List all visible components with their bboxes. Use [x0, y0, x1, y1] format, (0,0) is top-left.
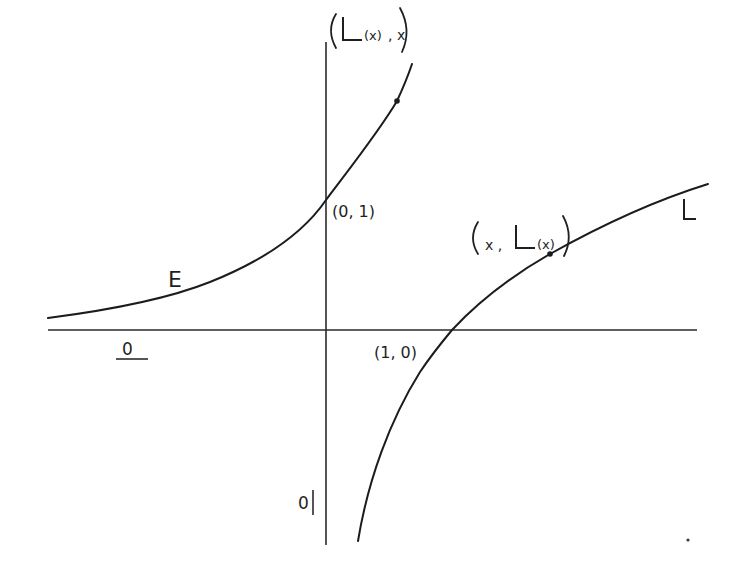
x-origin-zero: 0 [122, 339, 133, 359]
curve-E [48, 64, 412, 318]
exp-log-diagram: (x) , x (0, 1) E 0 (1, 0) x , (x) L 0 [0, 0, 737, 575]
label-L-subscript: (x) [364, 28, 382, 43]
label-curve-L [684, 200, 695, 219]
label-L-glyph [516, 226, 534, 248]
label-curve-E: E [168, 267, 182, 292]
left-paren [473, 222, 478, 254]
label-point-1-0: (1, 0) [374, 343, 417, 362]
label-x-comma: x , [485, 237, 502, 253]
x-axis-origin-marker: 0 [116, 339, 148, 359]
scan-speck [686, 538, 689, 541]
label-comma-x: , x [388, 27, 405, 43]
point-L-x-x [394, 98, 400, 104]
label-L-x-x: (x) , x [331, 8, 407, 52]
right-paren [563, 216, 569, 256]
label-point-0-1: (0, 1) [332, 202, 375, 221]
label-L-glyph [343, 18, 361, 40]
label-x-L-x: x , (x) [473, 216, 569, 256]
left-paren [331, 14, 336, 48]
curve-L [358, 184, 708, 541]
y-axis-origin-marker: 0 [298, 490, 313, 515]
y-origin-zero: 0 [298, 493, 309, 513]
point-x-L-x [547, 251, 553, 257]
label-L-subscript: (x) [537, 237, 555, 252]
